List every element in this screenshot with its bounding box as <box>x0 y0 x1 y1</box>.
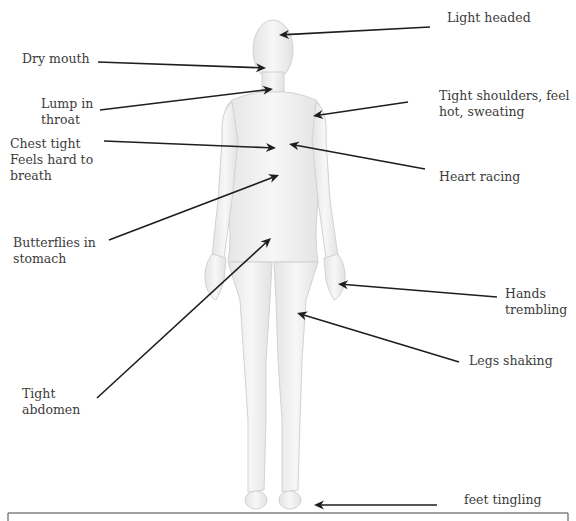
label-heart-racing: Heart racing <box>439 169 520 185</box>
human-figure <box>205 20 345 509</box>
left-foot <box>245 491 267 509</box>
right-hand <box>324 254 345 300</box>
label-dry-mouth: Dry mouth <box>22 51 90 67</box>
label-butterflies: Butterflies in stomach <box>13 235 96 267</box>
label-hands-trembling: Hands trembling <box>505 286 567 318</box>
left-hand <box>205 254 226 300</box>
label-tight-shoulders: Tight shoulders, feel hot, sweating <box>439 88 570 120</box>
label-tight-abdomen: Tight abdomen <box>22 386 80 418</box>
arrow-legs-shaking <box>297 312 459 362</box>
right-foot <box>279 491 301 509</box>
arrow-feet-tingling <box>314 501 437 510</box>
label-chest-tight: Chest tight Feels hard to breath <box>10 136 93 184</box>
frame <box>8 513 568 521</box>
label-feet-tingling: feet tingling <box>464 492 542 508</box>
body-map-diagram: Light headed Dry mouth Lump in throat Ti… <box>0 0 576 521</box>
arrow-hands-trembling <box>338 280 497 297</box>
head <box>253 20 293 80</box>
arrow-dry-mouth <box>98 62 266 72</box>
arrow-tight-shoulders <box>313 102 408 119</box>
label-light-headed: Light headed <box>447 10 531 26</box>
left-leg <box>228 262 272 492</box>
right-leg <box>274 262 318 492</box>
arrow-light-headed <box>279 27 430 39</box>
label-legs-shaking: Legs shaking <box>469 353 553 369</box>
label-lump-in-throat: Lump in throat <box>41 96 93 128</box>
